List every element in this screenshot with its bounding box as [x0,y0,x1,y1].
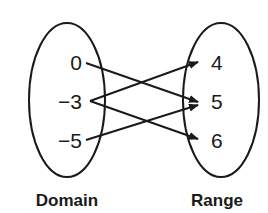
range-label: Range [191,191,243,210]
arrow-neg3-to-4 [90,62,198,101]
domain-value-neg3: −3 [58,90,82,113]
range-value-4: 4 [211,51,223,74]
domain-value-0: 0 [70,51,82,74]
domain-value-neg5: −5 [58,129,82,152]
domain-label: Domain [36,191,98,210]
mapping-diagram: 0 −3 −5 4 5 6 Domain Range [0,0,268,213]
range-value-5: 5 [211,90,223,113]
range-value-6: 6 [211,129,223,152]
